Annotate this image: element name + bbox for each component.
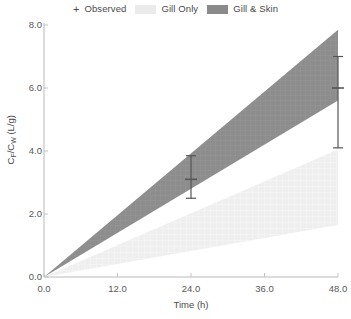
x-tick-label: 48.0	[318, 284, 351, 294]
x-tick-label: 0.0	[24, 284, 64, 294]
chart-figure: + Observed Gill Only Gill & Skin	[0, 0, 351, 319]
x-axis-title: Time (h)	[44, 300, 338, 310]
x-tick-label: 12.0	[98, 284, 138, 294]
y-axis-title: CF/CW (L/g)	[6, 85, 16, 195]
x-tick-label: 24.0	[171, 284, 211, 294]
x-axis-tick-labels: 0.012.024.036.048.0	[0, 0, 351, 319]
x-tick-label: 36.0	[245, 284, 285, 294]
